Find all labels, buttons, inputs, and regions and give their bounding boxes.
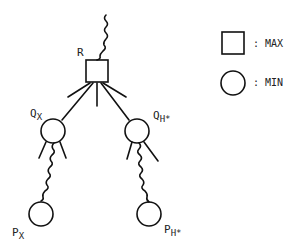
qx-label: QX [30,108,42,122]
qh-branch-left-stub [127,142,132,159]
qh-label-sub: H* [160,114,171,124]
px-min-node [29,202,53,226]
legend-max-square-icon [222,32,244,54]
px-label-sub: X [19,231,24,241]
qx-branch-right-stub [60,142,66,158]
ph-label-text: P [164,223,171,236]
px-label-text: P [12,226,19,239]
edge-qx-to-px-wavy [41,143,54,201]
qx-label-sub: X [37,112,42,122]
qh-min-node [125,119,149,143]
ph-label: PH* [164,224,181,238]
ph-min-node [137,202,161,226]
root-max-node [86,60,108,82]
edge-qh-to-ph-wavy [138,143,149,202]
game-tree-diagram [0,0,296,250]
qx-label-text: Q [30,107,37,120]
legend-min-circle-icon [221,71,245,95]
qx-branch-left-stub [39,142,46,158]
qh-label-text: Q [153,109,160,122]
root-label-text: R [77,46,84,59]
ph-label-sub: H* [171,228,182,238]
legend-min-label: : MIN [253,77,283,88]
px-label: PX [12,227,24,241]
root-incoming-wavy-edge [97,15,108,60]
legend-max-label: : MAX [253,38,283,49]
edge-r-to-qh [101,83,129,120]
qx-min-node [41,119,65,143]
qh-branch-right-stub [144,142,158,161]
root-label: R [77,47,84,58]
edge-r-to-qx [62,83,93,120]
qh-label: QH* [153,110,170,124]
